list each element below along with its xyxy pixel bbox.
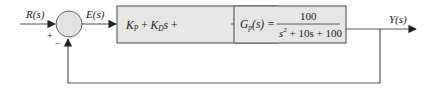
connector-layer [0, 0, 442, 88]
